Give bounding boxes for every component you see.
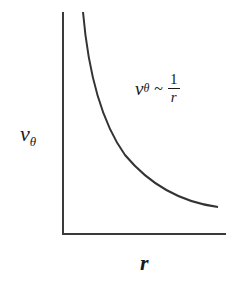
- inverse-curve: [83, 12, 218, 207]
- y-axis-label: vθ: [20, 121, 36, 150]
- equation-lhs-sub: θ: [143, 81, 149, 96]
- equation-annotation: vθ ~ 1 r: [135, 72, 180, 105]
- equation-relation: ~: [154, 80, 163, 98]
- fraction-numerator: 1: [168, 72, 180, 89]
- equation-lhs: v: [135, 78, 143, 100]
- fraction-denominator: r: [171, 89, 177, 105]
- fraction: 1 r: [168, 72, 180, 105]
- x-axis-label: r: [140, 250, 149, 276]
- figure: vθ r vθ ~ 1 r: [0, 0, 233, 281]
